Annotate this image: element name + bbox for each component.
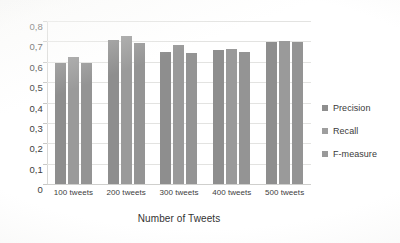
- x-axis-label: 400 tweets: [212, 188, 251, 197]
- bar-chart: 00,10,20,30,40,50,60,70,8 100 tweets200 …: [0, 0, 400, 243]
- bar-group: [153, 22, 206, 185]
- x-axis-label: 100 tweets: [54, 188, 93, 197]
- legend-item-precision[interactable]: Precision: [322, 103, 377, 113]
- legend-swatch-icon: [322, 105, 328, 111]
- legend-item-label: F-measure: [333, 149, 377, 159]
- plot-area: [47, 22, 311, 185]
- x-axis-line: [47, 184, 311, 185]
- bar-recall[interactable]: [173, 45, 184, 185]
- bar-fmeasure[interactable]: [134, 43, 145, 185]
- x-axis-category-labels: 100 tweets200 tweets300 tweets400 tweets…: [47, 188, 311, 202]
- legend-item-label: Precision: [333, 103, 370, 113]
- bar-group: [47, 22, 100, 185]
- bar-group: [205, 22, 258, 185]
- x-axis-label: 500 tweets: [265, 188, 304, 197]
- legend-swatch-icon: [322, 151, 328, 157]
- bar-recall[interactable]: [226, 49, 237, 186]
- bar-fmeasure[interactable]: [292, 42, 303, 185]
- chart-legend: Precision Recall F-measure: [322, 103, 377, 159]
- x-axis-label: 200 tweets: [107, 188, 146, 197]
- legend-swatch-icon: [322, 128, 328, 134]
- x-axis-title: Number of Tweets: [47, 213, 311, 224]
- bar-recall[interactable]: [121, 36, 132, 185]
- bar-precision[interactable]: [55, 63, 66, 185]
- bar-precision[interactable]: [266, 42, 277, 185]
- legend-item-recall[interactable]: Recall: [322, 126, 377, 136]
- legend-item-label: Recall: [333, 126, 358, 136]
- bar-group: [100, 22, 153, 185]
- bar-group: [258, 22, 311, 185]
- bar-fmeasure[interactable]: [186, 53, 197, 185]
- legend-item-fmeasure[interactable]: F-measure: [322, 149, 377, 159]
- bar-precision[interactable]: [108, 40, 119, 185]
- bar-recall[interactable]: [68, 57, 79, 185]
- bar-precision[interactable]: [213, 50, 224, 185]
- x-axis-label: 300 tweets: [159, 188, 198, 197]
- bar-fmeasure[interactable]: [81, 63, 92, 185]
- y-axis-labels: 00,10,20,30,40,50,60,70,8: [12, 22, 43, 185]
- bar-fmeasure[interactable]: [239, 52, 250, 185]
- bar-recall[interactable]: [279, 41, 290, 185]
- bar-precision[interactable]: [160, 52, 171, 185]
